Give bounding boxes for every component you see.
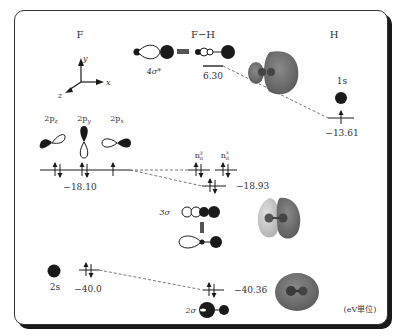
axis-y-label: y [82,54,88,63]
F-2s-label: 2s [50,282,61,292]
axes-icon [65,58,104,93]
F-2s-level [79,262,99,278]
H-1s-orbital-shape [335,92,347,104]
unit-note: (eV単位) [344,304,377,314]
H-1s-energy: −13.61 [325,128,358,138]
connector-bar [177,49,189,54]
correlation-line-sigma2 [99,270,203,290]
axis-z-label: z [57,91,63,100]
F-2s-energy: −40.0 [74,284,102,294]
F-2py-orbital-shape [80,126,88,158]
F-2px-orbital-shape [102,139,131,148]
mo-diagram: F F−H H y x z 4σ* 6.30 1s [0,0,402,336]
sigma2-level [203,282,224,298]
fh-antibonding-orbital-shape [195,45,235,59]
H-1s-label: 1s [337,76,348,86]
F-2px-label: 2px [110,114,124,124]
sigma4-star-isosurface [248,51,298,94]
F-2pz-label: 2pz [44,114,58,124]
sigma3-hybrid-orbital-shape [179,236,222,248]
sigma3-level [202,178,226,194]
sigma2-isosurface [275,273,319,311]
sigma3-isosurface [258,198,300,239]
sigma3-combination-bar [200,222,204,233]
sigma3-label: 3σ [159,208,170,217]
F-2s-orbital-shape [48,265,61,278]
header-FH: F−H [191,29,215,40]
axis-x-label: x [106,78,111,87]
F-2p-levels [40,162,130,178]
sigma3-energy: −18.93 [236,181,270,191]
F-2p-energy: −18.10 [63,182,97,192]
n-pi-x-label: nxπ [221,149,230,161]
sigma4-star-energy: 6.30 [203,71,223,81]
n-pi-levels [188,162,237,178]
sigma3-orbital-shape [182,206,220,218]
sigma2-energy: −40.36 [234,285,268,295]
sigma4-star-orbital-shape [134,45,175,59]
header-F: F [77,29,84,40]
F-2pz-orbital-shape [40,135,65,149]
n-pi-y-label: nyπ [195,149,204,161]
header-H: H [330,29,339,40]
F-2py-label: 2py [77,114,91,125]
sigma2-label: 2σ [184,306,196,315]
correlation-line-sigma3 [130,170,202,186]
sigma4-star-label: 4σ* [146,67,162,76]
sigma2-orbital-shape [199,302,229,318]
H-1s-level [328,110,354,124]
